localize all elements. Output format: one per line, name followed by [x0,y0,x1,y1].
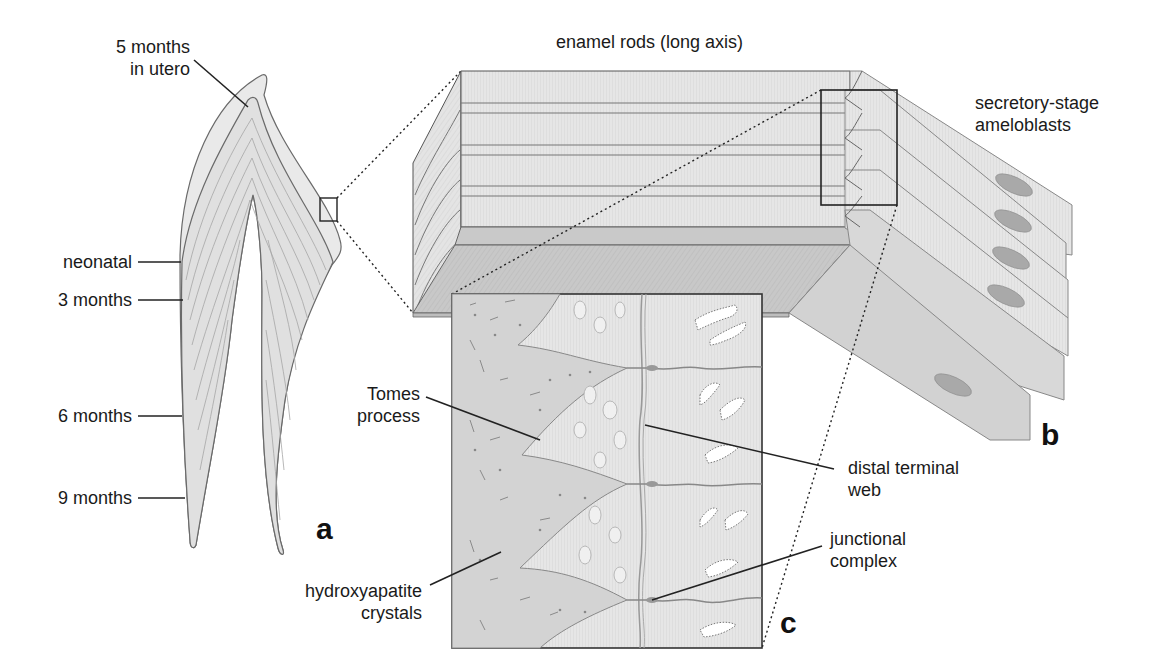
label-tomes-process: Tomes process [300,383,420,427]
panel-label-b: b [1041,420,1059,450]
label-3-months: 3 months [20,289,132,311]
label-hydroxyapatite: hydroxyapatite crystals [260,580,422,624]
label-enamel-rods: enamel rods (long axis) [556,31,743,53]
leader-in-utero [194,60,248,107]
label-neonatal: neonatal [20,251,132,273]
label-9-months: 9 months [20,487,132,509]
tomes-process-detail [452,294,762,648]
panel-label-c: c [780,608,797,638]
enamel-rod-block [413,71,862,317]
label-junctional-complex: junctional complex [830,528,906,572]
tooth-section [138,60,341,554]
panel-label-a: a [316,514,333,544]
label-distal-terminal-web: distal terminal web [848,457,959,501]
label-ameloblasts: secretory-stage ameloblasts [975,92,1099,136]
label-in-utero: 5 months in utero [92,36,190,80]
label-6-months: 6 months [20,405,132,427]
